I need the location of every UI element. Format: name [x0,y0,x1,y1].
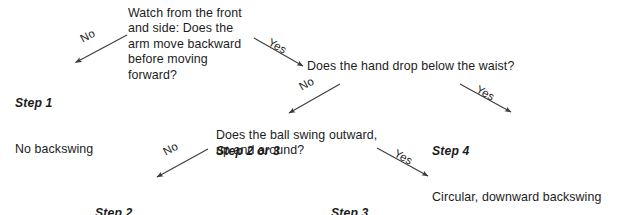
outcome-step-3-title: Step 3 [331,206,482,215]
edge-label-hand-no: No [297,75,316,93]
question-hand-drop: Does the hand drop below the waist? [307,59,514,74]
outcome-step-1-body: No backswing [15,142,93,157]
outcome-step-1: Step 1 No backswing [15,66,93,188]
outcome-step-2: Step 2 Elbow and humeral flexion [95,176,243,215]
question-root: Watch from the front and side: Does the … [128,6,242,83]
edge-label-hand-yes: Yes [474,83,497,103]
edge-label-root-no: No [78,27,97,45]
arrow-hand-drop-to-step2or3 [289,84,340,113]
outcome-step-4-title: Step 4 [432,144,601,159]
edge-label-root-yes: Yes [266,36,289,56]
outcome-step-2-title: Step 2 [95,206,243,215]
edge-label-ball-yes: Yes [392,147,415,167]
outcome-step-3: Step 3 Circular upward backswing [331,176,482,215]
decision-tree-diagram: Watch from the front and side: Does the … [0,0,625,215]
outcome-step-1-title: Step 1 [15,96,93,111]
question-ball-swing: Does the ball swing outward, up and arou… [216,128,377,159]
edge-label-ball-no: No [161,140,180,158]
